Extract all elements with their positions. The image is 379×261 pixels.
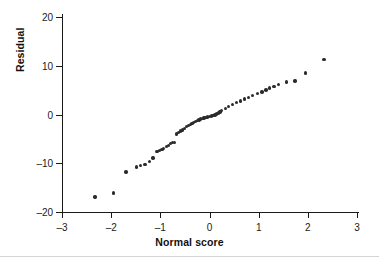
x-axis-tick xyxy=(160,212,161,218)
data-point xyxy=(251,94,254,97)
data-point xyxy=(260,90,263,93)
y-axis-tick-label: 20 xyxy=(42,12,53,23)
x-axis-tick-label: 3 xyxy=(354,222,359,233)
data-point xyxy=(93,195,96,198)
data-point xyxy=(304,71,307,74)
x-axis-tick-label: 0 xyxy=(207,222,212,233)
x-axis-tick xyxy=(259,212,260,218)
data-point xyxy=(124,170,127,173)
data-point xyxy=(239,99,242,102)
x-axis-tick xyxy=(111,212,112,218)
y-axis-tick xyxy=(56,17,62,18)
data-point xyxy=(139,164,142,167)
data-point xyxy=(285,80,288,83)
y-axis-tick-label: 10 xyxy=(42,60,53,71)
y-axis-tick-label: 0 xyxy=(48,109,53,120)
data-point xyxy=(112,191,115,194)
data-point xyxy=(143,163,146,166)
data-point xyxy=(277,83,280,86)
x-axis-tick-label: –2 xyxy=(106,222,117,233)
y-axis-tick xyxy=(56,115,62,116)
x-axis-tick xyxy=(308,212,309,218)
data-point xyxy=(268,86,271,89)
footer-divider xyxy=(0,256,379,257)
data-point xyxy=(247,96,250,99)
y-axis-title: Residual xyxy=(14,27,26,72)
x-axis-tick-label: 1 xyxy=(256,222,261,233)
y-axis-tick xyxy=(56,163,62,164)
data-point xyxy=(135,165,138,168)
x-axis-title: Normal score xyxy=(0,236,379,248)
data-point xyxy=(235,101,238,104)
data-point xyxy=(148,160,151,163)
y-axis-tick-label: –20 xyxy=(37,207,53,218)
x-axis-tick xyxy=(62,212,63,218)
data-point xyxy=(151,156,154,159)
x-axis-tick xyxy=(210,212,211,218)
x-axis-tick-label: –3 xyxy=(57,222,68,233)
data-point xyxy=(173,141,176,144)
y-axis-tick xyxy=(56,66,62,67)
data-point xyxy=(256,92,259,95)
x-axis-tick xyxy=(357,212,358,218)
data-point xyxy=(293,79,296,82)
data-point xyxy=(231,103,234,106)
normal-probability-plot-figure: –20–1001020 –3–2–10123 Residual Normal s… xyxy=(0,0,379,261)
x-axis-tick-label: 2 xyxy=(305,222,310,233)
data-point xyxy=(227,105,230,108)
y-axis-tick-label: –10 xyxy=(37,158,53,169)
data-point xyxy=(272,85,275,88)
data-point xyxy=(220,109,223,112)
plot-area: –20–1001020 –3–2–10123 xyxy=(62,17,357,212)
x-axis-tick-label: –1 xyxy=(155,222,166,233)
data-point xyxy=(243,97,246,100)
data-point xyxy=(322,58,325,61)
